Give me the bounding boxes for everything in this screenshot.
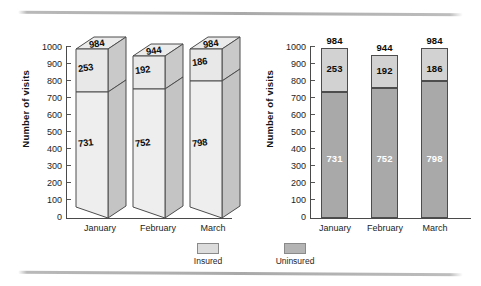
x-label-february-3d: February (128, 223, 188, 233)
bar-2d-february-total-label: 944 (371, 42, 398, 53)
y-tickmark-800-2d (311, 80, 315, 81)
bar-3d-january-uninsured-label: 731 (77, 136, 93, 149)
bar-3d-february-uninsured-label: 752 (134, 136, 150, 149)
bar-2d-march-uninsured-segment (421, 81, 448, 218)
page-rule-top (18, 11, 463, 17)
y-tick-200-2d: 200 (291, 179, 306, 188)
chart-3d-stacked-bar: Number of visits 1000 900 800 700 600 50… (4, 18, 236, 236)
y-tickmark-200-2d (311, 182, 315, 183)
page-rule-bottom (18, 271, 463, 277)
y-tickmark-900-2d (311, 63, 315, 64)
bar-2d-january-insured-label: 253 (321, 63, 348, 74)
bar-2d-march-uninsured-label: 798 (421, 153, 448, 164)
y-tickmark-600-2d (311, 114, 315, 115)
x-label-march-3d: March (188, 223, 238, 233)
y-tick-700-2d: 700 (291, 94, 306, 103)
bar-3d-january-insured-label: 253 (77, 61, 93, 74)
y-tick-500-2d: 500 (291, 128, 306, 137)
legend-label-insured: Insured (178, 256, 238, 266)
y-tick-600-2d: 600 (291, 111, 306, 120)
bar-2d-february-uninsured-label: 752 (371, 153, 398, 164)
y-tick-400-2d: 400 (291, 145, 306, 154)
y-tick-300-2d: 300 (291, 162, 306, 171)
y-tick-900-2d: 900 (291, 60, 306, 69)
legend-item-insured: Insured (178, 243, 238, 266)
y-tick-800-2d: 800 (291, 77, 306, 86)
x-label-february-2d: February (357, 223, 413, 233)
bar-3d-january-total-label: 984 (88, 37, 105, 50)
bar-3d-march-geometry (4, 18, 74, 218)
bar-2d-march-insured-label: 186 (421, 63, 448, 74)
legend-swatch-insured (197, 243, 219, 254)
x-label-january-3d: January (72, 223, 128, 233)
y-tick-100-2d: 100 (291, 196, 306, 205)
x-axis-line-3d (66, 218, 232, 219)
y-tick-0-2d: 0 (301, 213, 306, 222)
bar-3d-march-uninsured-label: 798 (191, 136, 207, 149)
y-tickmark-300-2d (311, 165, 315, 166)
x-label-january-2d: January (307, 223, 363, 233)
x-axis-line-2d (310, 218, 471, 219)
bar-2d-january-total-label: 984 (321, 35, 348, 46)
bar-3d-february-insured-label: 192 (134, 63, 150, 76)
legend-item-uninsured: Uninsured (262, 243, 328, 266)
y-tickmark-100-2d (311, 199, 315, 200)
bar-2d-march: 186 798 984 (421, 48, 448, 218)
y-axis-label-2d: Number of visits (264, 70, 275, 148)
bar-3d-march-insured-label: 186 (191, 55, 207, 68)
legend-label-uninsured: Uninsured (262, 256, 328, 266)
x-label-march-2d: March (411, 223, 459, 233)
y-axis-line-2d (310, 46, 311, 218)
bar-3d-march-total-label: 984 (202, 37, 219, 50)
bar-2d-january-uninsured-label: 731 (321, 153, 348, 164)
y-tickmark-1000-2d (311, 46, 315, 47)
chart-legend: Insured Uninsured (0, 243, 481, 271)
bar-2d-january: 253 731 984 (321, 48, 348, 218)
y-tick-1000-2d: 1000 (286, 43, 306, 52)
bar-3d-february-total-label: 944 (145, 44, 162, 57)
bar-2d-february: 192 752 944 (371, 55, 398, 218)
y-tickmark-500-2d (311, 131, 315, 132)
legend-swatch-uninsured (284, 243, 306, 254)
y-tickmark-400-2d (311, 148, 315, 149)
bar-2d-march-total-label: 984 (421, 35, 448, 46)
chart-2d-stacked-bar: Number of visits 1000 900 800 700 600 50… (243, 18, 475, 236)
bar-2d-february-insured-label: 192 (371, 65, 398, 76)
y-tickmark-700-2d (311, 97, 315, 98)
